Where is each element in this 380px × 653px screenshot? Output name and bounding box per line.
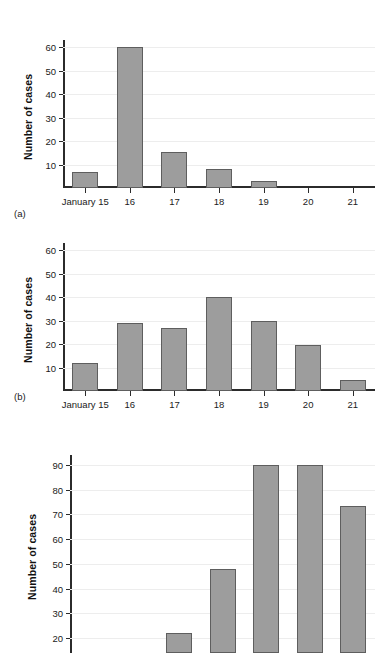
x-axis-tick-label: 20 (303, 196, 314, 207)
y-axis-tick (66, 490, 70, 491)
bar (72, 172, 98, 188)
y-axis-tick-label: 70 (52, 509, 63, 520)
x-axis-tick-label: 19 (258, 196, 269, 207)
x-axis-tick (219, 391, 220, 396)
gridline (63, 71, 375, 72)
y-axis-tick (59, 47, 63, 48)
x-axis-tick (130, 391, 131, 396)
bar (340, 380, 366, 391)
y-axis-tick (66, 589, 70, 590)
x-axis-tick (353, 391, 354, 396)
x-axis-tick (85, 391, 86, 396)
x-axis-tick (130, 188, 131, 193)
chart-panel-b: Number of cases 102030405060January 1516… (0, 215, 380, 410)
plot-area-b: 102030405060January 15161718192021 (63, 243, 375, 391)
y-axis-title-c: Number of cases (26, 514, 38, 600)
y-axis-tick (66, 465, 70, 466)
bar (161, 328, 187, 391)
gridline (63, 250, 375, 251)
y-axis-tick (59, 141, 63, 142)
bar (295, 345, 321, 391)
gridline (70, 490, 375, 491)
y-axis-line-a (63, 40, 65, 188)
y-axis-tick-label: 80 (52, 484, 63, 495)
x-axis-tick-label: 17 (169, 399, 180, 410)
y-axis-title-a: Number of cases (22, 74, 34, 160)
y-axis-tick-label: 50 (45, 268, 56, 279)
x-axis-tick (264, 391, 265, 396)
bar (206, 297, 232, 391)
y-axis-tick-label: 60 (52, 534, 63, 545)
y-axis-tick (66, 638, 70, 639)
bar (206, 169, 232, 188)
bar (251, 181, 277, 188)
plot-area-c: 2030405060708090 (70, 455, 375, 653)
x-axis-tick (219, 188, 220, 193)
y-axis-tick-label: 30 (45, 112, 56, 123)
bar (251, 321, 277, 391)
y-axis-tick (59, 94, 63, 95)
y-axis-tick (59, 250, 63, 251)
x-axis-tick-label: 16 (125, 196, 136, 207)
y-axis-tick (66, 613, 70, 614)
x-axis-tick (174, 188, 175, 193)
x-axis-tick-label: 21 (347, 196, 358, 207)
bar (253, 465, 279, 653)
y-axis-tick (59, 368, 63, 369)
bar (166, 633, 192, 653)
gridline (70, 539, 375, 540)
y-axis-tick (59, 274, 63, 275)
bar (340, 506, 366, 653)
y-axis-tick-label: 10 (45, 159, 56, 170)
bar (161, 152, 187, 188)
y-axis-tick-label: 30 (45, 315, 56, 326)
y-axis-tick-label: 40 (45, 89, 56, 100)
y-axis-title-b: Number of cases (22, 277, 34, 363)
y-axis-tick (59, 344, 63, 345)
x-axis-tick-label: 18 (214, 399, 225, 410)
y-axis-tick-label: 40 (52, 583, 63, 594)
x-axis-tick (264, 188, 265, 193)
y-axis-tick-label: 50 (52, 558, 63, 569)
x-axis-tick-label: 21 (347, 399, 358, 410)
y-axis-tick-label: 10 (45, 362, 56, 373)
y-axis-tick-label: 40 (45, 292, 56, 303)
gridline (63, 141, 375, 142)
y-axis-tick-label: 20 (45, 136, 56, 147)
chart-panel-c: Number of cases 2030405060708090 (0, 420, 380, 620)
y-axis-tick-label: 30 (52, 608, 63, 619)
plot-area-a: 102030405060January 15161718192021 (63, 40, 375, 188)
x-axis-tick (174, 391, 175, 396)
x-axis-tick (85, 188, 86, 193)
chart-panel-a: Number of cases 102030405060January 1516… (0, 0, 380, 215)
x-axis-tick (308, 188, 309, 193)
x-axis-tick (308, 391, 309, 396)
y-axis-tick-label: 50 (45, 65, 56, 76)
x-axis-tick-label: 20 (303, 399, 314, 410)
x-axis-tick-label: 16 (125, 399, 136, 410)
y-axis-tick-label: 60 (45, 42, 56, 53)
y-axis-tick (59, 165, 63, 166)
y-axis-tick (59, 118, 63, 119)
y-axis-tick (66, 514, 70, 515)
y-axis-tick (59, 321, 63, 322)
y-axis-tick-label: 60 (45, 245, 56, 256)
y-axis-tick (66, 539, 70, 540)
bar (72, 363, 98, 391)
x-axis-tick-label: January 15 (62, 399, 109, 410)
bar (117, 47, 143, 188)
y-axis-tick-label: 20 (52, 633, 63, 644)
gridline (63, 47, 375, 48)
panel-caption-b: (b) (14, 391, 26, 402)
y-axis-tick (59, 297, 63, 298)
bar (117, 323, 143, 391)
y-axis-tick-label: 20 (45, 339, 56, 350)
gridline (63, 274, 375, 275)
gridline (63, 118, 375, 119)
y-axis-line-b (63, 243, 65, 391)
gridline (63, 165, 375, 166)
x-axis-tick-label: 17 (169, 196, 180, 207)
gridline (63, 94, 375, 95)
gridline (70, 465, 375, 466)
